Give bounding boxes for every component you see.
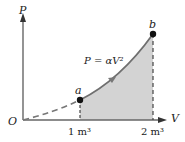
- tick-label-1: 1 m³: [68, 126, 91, 137]
- x-axis-label: V: [171, 112, 180, 125]
- x-axis-arrow-icon: [158, 117, 167, 123]
- point-a-label: a: [75, 84, 82, 97]
- point-b: [150, 31, 156, 37]
- point-b-label: b: [149, 18, 156, 31]
- origin-label: O: [8, 115, 17, 128]
- pv-diagram: P V O a b P = αV² 1 m³ 2 m³: [0, 0, 185, 142]
- y-axis-label: P: [18, 4, 27, 17]
- equation-label: P = αV²: [83, 55, 123, 66]
- point-a: [77, 97, 83, 103]
- curve-dashed-segment: [23, 100, 80, 120]
- tick-label-2: 2 m³: [141, 126, 164, 137]
